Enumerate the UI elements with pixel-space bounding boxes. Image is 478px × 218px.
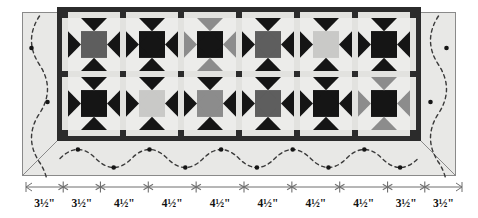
ruler-segment-label: 3½" bbox=[396, 197, 417, 209]
star-block-r1c6 bbox=[358, 18, 410, 71]
quilting-dot bbox=[219, 147, 224, 152]
cornerstone bbox=[120, 130, 126, 136]
arrow-barb bbox=[26, 187, 32, 191]
cornerstone bbox=[62, 12, 68, 18]
star-block-r2c1 bbox=[68, 77, 120, 130]
cornerstone bbox=[62, 130, 68, 136]
star-block-r2c4 bbox=[242, 77, 294, 130]
cornerstone bbox=[352, 130, 358, 136]
quilt-illustration bbox=[0, 0, 478, 178]
cornerstone bbox=[410, 71, 416, 77]
cornerstone bbox=[294, 71, 300, 77]
star-block-r1c3 bbox=[184, 18, 236, 71]
star-block-r1c1 bbox=[68, 18, 120, 71]
ruler-segment-label: 4½" bbox=[114, 197, 135, 209]
star-block-r2c6 bbox=[358, 77, 410, 130]
quilt-diagram: 3½"3½"4½"4½"4½"4½"4½"4½"3½"3½" bbox=[0, 0, 478, 218]
star-block-r2c3 bbox=[184, 77, 236, 130]
quilting-dot bbox=[398, 165, 403, 170]
ruler-segment-label: 4½" bbox=[353, 197, 374, 209]
star-block-r1c2 bbox=[126, 18, 178, 71]
star-block-r2c2 bbox=[126, 77, 178, 130]
cornerstone bbox=[352, 71, 358, 77]
quilting-dot bbox=[255, 165, 260, 170]
quilting-dot bbox=[290, 147, 295, 152]
quilting-dot bbox=[326, 165, 331, 170]
cornerstone bbox=[178, 130, 184, 136]
cornerstone bbox=[120, 12, 126, 18]
quilting-dot bbox=[147, 147, 152, 152]
ruler-segment-label: 3½" bbox=[71, 197, 92, 209]
measurement-ruler: 3½"3½"4½"4½"4½"4½"4½"4½"3½"3½" bbox=[0, 178, 478, 218]
cornerstone bbox=[352, 12, 358, 18]
ruler-segment-label: 3½" bbox=[433, 197, 454, 209]
star-block-r1c4 bbox=[242, 18, 294, 71]
quilting-dot bbox=[111, 165, 116, 170]
cornerstone bbox=[178, 12, 184, 18]
cornerstone bbox=[410, 130, 416, 136]
cornerstone bbox=[236, 71, 242, 77]
cornerstone bbox=[236, 12, 242, 18]
star-block-r1c5 bbox=[300, 18, 352, 71]
cornerstone bbox=[294, 12, 300, 18]
cornerstone bbox=[120, 71, 126, 77]
quilting-dot bbox=[183, 165, 188, 170]
cornerstone bbox=[410, 12, 416, 18]
ruler-segment-label: 4½" bbox=[258, 197, 279, 209]
quilting-dot bbox=[428, 100, 433, 105]
quilting-dot bbox=[362, 147, 367, 152]
cornerstone bbox=[178, 71, 184, 77]
arrow-barb bbox=[456, 183, 462, 187]
ruler-segment-label: 3½" bbox=[34, 197, 55, 209]
quilting-dot bbox=[444, 46, 449, 51]
ruler-segment-label: 4½" bbox=[210, 197, 231, 209]
cornerstone bbox=[62, 71, 68, 77]
arrow-barb bbox=[26, 183, 32, 187]
arrow-barb bbox=[456, 187, 462, 191]
ruler-segment-label: 4½" bbox=[305, 197, 326, 209]
star-block-r2c5 bbox=[300, 77, 352, 130]
cornerstone bbox=[294, 130, 300, 136]
quilting-dot bbox=[29, 46, 34, 51]
ruler-labels: 3½"3½"4½"4½"4½"4½"4½"4½"3½"3½" bbox=[34, 197, 454, 209]
cornerstone bbox=[236, 130, 242, 136]
quilting-dot bbox=[45, 100, 50, 105]
ruler-segment-label: 4½" bbox=[162, 197, 183, 209]
quilting-dot bbox=[76, 147, 81, 152]
